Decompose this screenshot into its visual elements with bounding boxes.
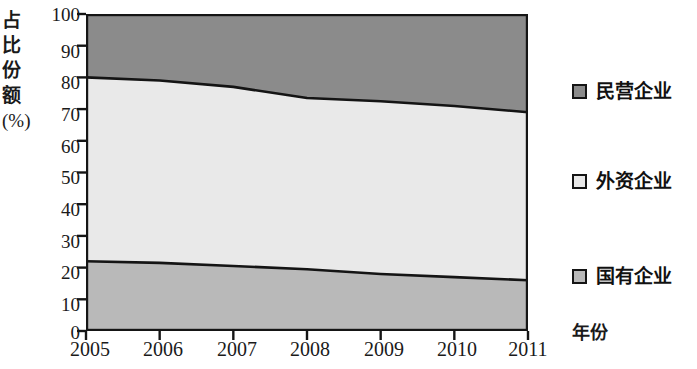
legend-item-private[interactable]: 民营企业 (572, 80, 672, 102)
y-axis-title: 占 比 份 额 (%) (2, 8, 36, 133)
y-tick-20: 20 (36, 263, 80, 282)
stacked-area-chart: 占 比 份 额 (%) 100 90 80 70 60 50 40 30 20 … (0, 0, 697, 369)
x-tick-2010: 2010 (417, 336, 497, 362)
y-tick-10: 10 (36, 295, 80, 314)
y-axis-tick-labels: 100 90 80 70 60 50 40 30 20 10 0 (36, 0, 80, 369)
legend-item-state[interactable]: 国有企业 (572, 265, 672, 287)
y-tick-40: 40 (36, 200, 80, 219)
x-tick-2009: 2009 (344, 336, 424, 362)
y-axis-title-char-1: 占 (2, 8, 36, 33)
y-tick-50: 50 (36, 168, 80, 187)
y-axis-title-char-4: 额 (2, 83, 36, 108)
y-tick-80: 80 (36, 73, 80, 92)
x-tick-2007: 2007 (197, 336, 277, 362)
x-tick-2006: 2006 (123, 336, 203, 362)
y-tick-30: 30 (36, 232, 80, 251)
y-axis-title-unit: (%) (2, 108, 36, 133)
area-bands (86, 14, 528, 331)
y-tick-100: 100 (36, 5, 80, 24)
y-tick-70: 70 (36, 105, 80, 124)
x-tick-2008: 2008 (270, 336, 350, 362)
plot-area (86, 14, 528, 331)
legend-swatch-state-icon (572, 269, 587, 284)
legend-swatch-foreign-icon (572, 174, 587, 189)
x-tick-2011: 2011 (488, 336, 568, 362)
legend-swatch-private-icon (572, 84, 587, 99)
legend-label-state: 国有企业 (596, 265, 672, 287)
legend-label-foreign: 外资企业 (596, 170, 672, 192)
plot-svg (86, 14, 528, 331)
y-tick-90: 90 (36, 42, 80, 61)
chart-legend: 民营企业 外资企业 国有企业 (572, 0, 697, 369)
legend-item-foreign[interactable]: 外资企业 (572, 170, 672, 192)
y-axis-title-char-3: 份 (2, 58, 36, 83)
y-tick-60: 60 (36, 137, 80, 156)
x-tick-2005: 2005 (50, 336, 130, 362)
y-axis-title-char-2: 比 (2, 33, 36, 58)
legend-label-private: 民营企业 (596, 80, 672, 102)
